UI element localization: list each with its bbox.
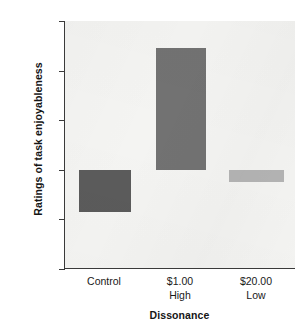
y-tick-mark-3 [59, 120, 65, 121]
bar-one-dollar-high [156, 48, 206, 170]
x-tick-control-line-1: Control [64, 275, 144, 289]
y-tick-mark-2 [59, 71, 65, 72]
y-tick-mark-1 [59, 21, 65, 22]
x-tick-one-dollar-high: $1.00 High [140, 275, 220, 302]
y-tick-mark-6 [59, 269, 65, 270]
y-tick-mark-4 [59, 170, 65, 171]
plot-area: +1.5 +1.0 +0.5 0.0 -0.5 -1.0 [64, 21, 295, 269]
chart-figure: Ratings of task enjoyableness +1.5 +1.0 … [0, 0, 305, 328]
x-axis-title: Dissonance [64, 309, 295, 321]
x-tick-twenty-dollar-low: $20.00 Low [216, 275, 296, 302]
x-tick-twenty-dollar-line-1: $20.00 [216, 275, 296, 289]
x-tick-control: Control [64, 275, 144, 289]
x-tick-one-dollar-line-1: $1.00 [140, 275, 220, 289]
x-tick-twenty-dollar-line-2: Low [216, 289, 296, 303]
x-tick-one-dollar-line-2: High [140, 289, 220, 303]
y-tick-mark-5 [59, 219, 65, 220]
bar-control [79, 170, 131, 213]
bar-twenty-dollar-low [229, 170, 284, 182]
y-axis-title: Ratings of task enjoyableness [32, 39, 44, 239]
